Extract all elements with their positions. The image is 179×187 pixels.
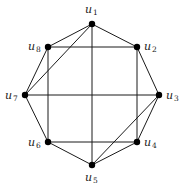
node-u7 (22, 92, 28, 98)
node-u5 (89, 162, 95, 168)
node-label-subscript: 5 (93, 176, 98, 185)
edge-u5-u6 (48, 142, 92, 165)
edge-u6-u7 (25, 95, 48, 142)
node-u6 (45, 139, 51, 145)
node-label-subscript: 6 (36, 141, 41, 150)
edge-u7-u8 (25, 47, 48, 95)
node-label-u2: u2 (144, 40, 157, 54)
node-label-u1: u1 (85, 3, 98, 17)
graph-svg: u1u2u3u4u5u6u7u8 (0, 0, 179, 187)
node-label-u6: u6 (28, 136, 41, 150)
edge-u3-u4 (137, 95, 159, 142)
node-label-subscript: 4 (152, 141, 157, 150)
edge-u8-u1 (48, 24, 92, 47)
node-u3 (156, 92, 162, 98)
edge-u3-u5 (92, 95, 159, 165)
node-label-subscript: 1 (93, 8, 98, 17)
edge-u4-u5 (92, 142, 137, 165)
node-u1 (89, 21, 95, 27)
node-label-u8: u8 (28, 40, 41, 54)
node-label-subscript: 8 (36, 45, 41, 54)
node-label-subscript: 3 (174, 94, 179, 103)
node-label-u5: u5 (85, 171, 98, 185)
node-u4 (134, 139, 140, 145)
edge-u1-u2 (92, 24, 137, 47)
node-label-u3: u3 (166, 89, 179, 103)
node-u2 (134, 44, 140, 50)
edge-u2-u3 (137, 47, 159, 95)
edge-u1-u7 (25, 24, 92, 95)
node-u8 (45, 44, 51, 50)
node-label-subscript: 7 (13, 94, 18, 103)
graph-diagram: u1u2u3u4u5u6u7u8 (0, 0, 179, 187)
node-label-u4: u4 (144, 136, 157, 150)
node-label-subscript: 2 (152, 45, 157, 54)
node-label-u7: u7 (5, 89, 18, 103)
